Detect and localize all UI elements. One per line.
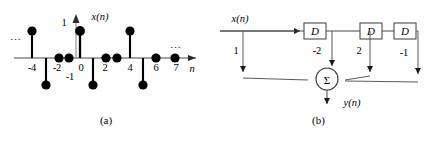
x-tick-label-two: 2 [102, 62, 107, 73]
x-tick-label-minus2: -2 [53, 62, 62, 73]
x-axis-arrowhead [188, 55, 196, 61]
stem-marker [27, 26, 36, 35]
tap-join-3 [345, 76, 370, 80]
stem-marker [125, 26, 134, 35]
x-tick-label-four: 4 [127, 62, 133, 73]
output-label: y(n) [343, 97, 361, 109]
panel-stem-plot: 1 -1 -4 -2 0 2 4 6 7 n x(n) ... ... (a) [0, 0, 212, 143]
figure-container: 1 -1 -4 -2 0 2 4 6 7 n x(n) ... ... (a) [0, 0, 425, 143]
tap-join-4 [345, 81, 418, 82]
panel-a-caption: (a) [0, 114, 212, 126]
ellipsis-left: ... [11, 31, 22, 42]
coefficient-label-3: 2 [356, 45, 361, 56]
delay-block-2-label: D [366, 25, 375, 37]
sum-symbol: Σ [324, 74, 330, 86]
y-tick-label-neg-one: -1 [66, 71, 75, 82]
stem-marker [112, 53, 121, 62]
panel-b-caption: (b) [212, 114, 425, 126]
input-label: x(n) [231, 13, 249, 25]
y-axis-arrowhead [73, 14, 80, 23]
stem-marker [64, 53, 73, 62]
delay-block-3-label: D [400, 25, 409, 37]
x-tick-label-minus4: -4 [28, 62, 37, 73]
ellipsis-right: ... [171, 39, 182, 50]
coefficient-label-1: 1 [233, 45, 238, 56]
y-tick-label-pos-one: 1 [61, 17, 66, 28]
x-tick-label-seven: 7 [173, 62, 178, 73]
stem-marker [88, 80, 97, 89]
block-diagram-svg: D D D 1 -2 2 -1 [212, 0, 425, 120]
stem-marker [75, 26, 85, 36]
tap-join-1 [243, 78, 308, 80]
stem-plot-svg: 1 -1 -4 -2 0 2 4 6 7 n x(n) ... ... [0, 0, 212, 120]
coefficient-label-4: -1 [400, 47, 409, 58]
stem-marker [41, 80, 50, 89]
coefficient-label-2: -2 [313, 45, 322, 56]
x-axis-label: n [189, 63, 194, 74]
x-tick-label-zero: 0 [78, 62, 83, 73]
delay-block-1-label: D [310, 25, 319, 37]
x-tick-label-six: 6 [153, 62, 158, 73]
stem-marker [138, 80, 147, 89]
panel-block-diagram: D D D 1 -2 2 -1 [212, 0, 425, 143]
y-axis-label: x(n) [91, 11, 109, 23]
